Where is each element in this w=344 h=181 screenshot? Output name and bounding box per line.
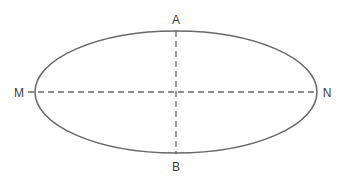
vertex-label-b: B: [172, 160, 180, 174]
vertex-label-a: A: [172, 13, 180, 27]
diagram-background: [0, 0, 344, 181]
vertex-label-n: N: [323, 86, 332, 100]
diagram-canvas: A B M N: [0, 0, 344, 181]
ellipse-diagram-figure: A B M N: [0, 0, 344, 181]
vertex-label-m: M: [14, 86, 24, 100]
